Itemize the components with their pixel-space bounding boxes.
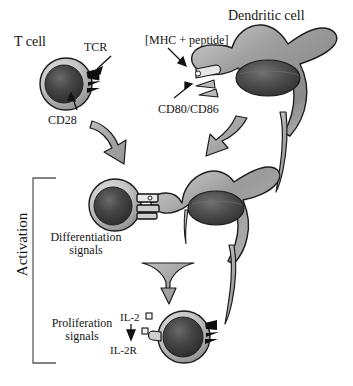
il2-binding-arrow [127, 324, 135, 340]
t-cell-top [40, 58, 101, 110]
il2-molecule-1 [146, 313, 152, 319]
t-cell-bottom-nucleus [163, 317, 203, 357]
dendritic-cell-top-nucleus [236, 60, 300, 96]
t-cell-middle [89, 179, 141, 231]
mhc-peptide-label: [MHC + peptide] [145, 33, 228, 48]
activation-label: Activation [14, 200, 31, 290]
dendritic-cell-middle-process-short [184, 210, 188, 244]
immune-synapse-contact [137, 194, 159, 219]
il2-label: IL-2 [120, 311, 140, 323]
t-cell-label: T cell [14, 34, 46, 50]
cd80-cd86-protrusion [196, 80, 218, 97]
dendritic-cell-middle-nucleus [188, 191, 244, 225]
cd80-cd86-label: CD80/CD86 [158, 102, 219, 117]
cd80-pointer-head [185, 82, 192, 89]
arrow-left-curved [90, 121, 126, 164]
il2-receptor-cup [149, 331, 162, 341]
arrow-funnel-down [142, 263, 194, 304]
proliferation-signals-label: Proliferation signals [38, 317, 126, 343]
differentiation-signals-line2: signals [40, 244, 132, 257]
tcr-label: TCR [84, 40, 107, 55]
dendritic-cell-label: Dendritic cell [228, 8, 305, 24]
cd28-label: CD28 [48, 113, 77, 128]
proliferation-signals-line2: signals [38, 330, 126, 343]
t-cell-top-nucleus [45, 65, 83, 103]
arrow-right-curved [206, 116, 247, 156]
differentiation-signals-label: Differentiation signals [40, 231, 132, 257]
tcr-pointer-line [97, 56, 111, 69]
il2-molecule-2 [142, 328, 148, 334]
t-cell-bottom [149, 311, 220, 363]
il2-molecules [142, 313, 152, 334]
t-cell-middle-nucleus [94, 187, 132, 225]
il2r-label: IL-2R [110, 344, 137, 356]
